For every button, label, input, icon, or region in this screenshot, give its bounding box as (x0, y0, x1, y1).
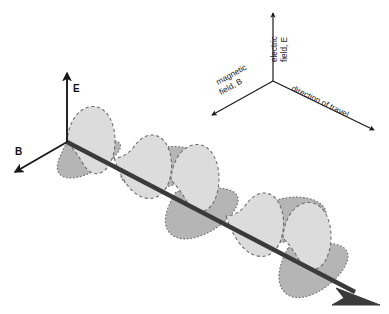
electromagnetic-wave-figure: E B electric field, E magnetic field, B (0, 0, 389, 314)
propagation-arrowhead (332, 288, 380, 305)
legend-travel-axis: direction of travel (273, 81, 374, 130)
b-axis-label: B (15, 146, 22, 157)
legend-travel-label: direction of travel (290, 84, 350, 119)
e-axis-label: E (73, 83, 80, 94)
electric-field-wave (67, 106, 331, 269)
legend-electric-label-line1: electric (270, 36, 279, 62)
legend-electric-axis: electric field, E (270, 13, 289, 81)
e-lobe-2 (114, 135, 172, 198)
propagation-axis (67, 142, 380, 305)
axis-key-legend: electric field, E magnetic field, B dire… (212, 13, 374, 130)
figure-canvas: E B electric field, E magnetic field, B (0, 0, 389, 314)
legend-magnetic-axis: magnetic field, B (212, 63, 273, 115)
legend-electric-label-line2: field, E (280, 36, 289, 62)
